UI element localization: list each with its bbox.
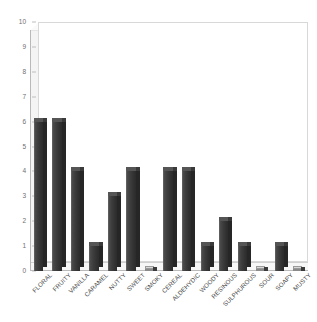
- bar-face: [163, 171, 172, 271]
- bar-cereal[interactable]: [163, 171, 172, 271]
- bar-vanilla[interactable]: [71, 171, 80, 271]
- y-axis-tick-label: 7: [22, 93, 26, 100]
- bar-face: [238, 246, 247, 271]
- bar-sweet[interactable]: [126, 171, 135, 271]
- bar-top-cap: [182, 167, 191, 171]
- bar-aldehydic[interactable]: [182, 171, 191, 271]
- bar-slot: [34, 22, 43, 271]
- bar-slot: [89, 22, 98, 271]
- y-axis-tick-label: 10: [19, 19, 26, 26]
- bar-top-cap: [108, 192, 117, 196]
- bar-face: [201, 246, 210, 271]
- bar-slot: [238, 22, 247, 271]
- y-axis-ticks: 109876543210: [6, 0, 26, 322]
- x-axis-label-sweet: SWEET: [126, 272, 146, 292]
- bar-top-cap: [256, 266, 265, 269]
- bar-face: [71, 171, 80, 271]
- bar-face: [108, 196, 117, 271]
- bar-slot: [52, 22, 61, 271]
- y-axis-tick-label: 0: [22, 268, 26, 275]
- bars-container: [30, 22, 308, 271]
- bar-smoky[interactable]: [145, 269, 154, 271]
- bar-slot: [219, 22, 228, 271]
- y-axis-tick-label: 4: [22, 168, 26, 175]
- bar-face: [126, 171, 135, 271]
- bar-woody[interactable]: [201, 246, 210, 271]
- bar-floral[interactable]: [34, 122, 43, 271]
- bar-top-cap: [163, 167, 172, 171]
- bar-top-cap: [293, 266, 302, 269]
- bar-fruity[interactable]: [52, 122, 61, 271]
- bar-soapy[interactable]: [275, 246, 284, 271]
- x-axis-label-floral: FLORAL: [32, 272, 54, 294]
- x-axis-label-soapy: SOAPY: [274, 272, 294, 292]
- bar-face: [182, 171, 191, 271]
- bar-side-face: [173, 167, 177, 267]
- y-axis-tick-label: 9: [22, 44, 26, 51]
- y-axis-tick-label: 3: [22, 193, 26, 200]
- bar-face: [219, 221, 228, 271]
- bar-side-face: [228, 217, 232, 267]
- bar-face: [275, 246, 284, 271]
- y-axis-tick-label: 8: [22, 69, 26, 76]
- bar-slot: [126, 22, 135, 271]
- bar-sour[interactable]: [256, 269, 265, 271]
- y-axis-tick-label: 2: [22, 218, 26, 225]
- bar-top-cap: [34, 118, 43, 122]
- bar-top-cap: [89, 242, 98, 246]
- bar-side-face: [136, 167, 140, 267]
- x-axis-labels: FLORALFRUITYVANILLACARAMELNUTTYSWEETSMOK…: [30, 272, 308, 322]
- bar-top-cap: [219, 217, 228, 221]
- bar-side-face: [191, 167, 195, 267]
- bar-nutty[interactable]: [108, 196, 117, 271]
- bar-chart: 109876543210 FLORALFRUITYVANILLACARAMELN…: [0, 0, 317, 322]
- bar-top-cap: [71, 167, 80, 171]
- bar-slot: [163, 22, 172, 271]
- bar-caramel[interactable]: [89, 246, 98, 271]
- bar-top-cap: [126, 167, 135, 171]
- bar-side-face: [80, 167, 84, 267]
- bar-top-cap: [145, 266, 154, 269]
- y-axis-tick-label: 1: [22, 243, 26, 250]
- bar-resinous[interactable]: [219, 221, 228, 271]
- y-axis-tick-label: 6: [22, 118, 26, 125]
- bar-side-face: [117, 192, 121, 267]
- bar-face: [52, 122, 61, 271]
- bar-slot: [182, 22, 191, 271]
- y-axis-tick-label: 5: [22, 143, 26, 150]
- bar-slot: [145, 22, 154, 271]
- bar-slot: [201, 22, 210, 271]
- x-axis-label-musty: MUSTY: [293, 272, 313, 292]
- bar-slot: [275, 22, 284, 271]
- bar-face: [89, 246, 98, 271]
- bar-side-face: [62, 118, 66, 267]
- bar-top-cap: [201, 242, 210, 246]
- bar-top-cap: [52, 118, 61, 122]
- bar-sulphurous[interactable]: [238, 246, 247, 271]
- bar-slot: [256, 22, 265, 271]
- bar-musty[interactable]: [293, 269, 302, 271]
- bar-slot: [293, 22, 302, 271]
- bar-top-cap: [238, 242, 247, 246]
- bar-slot: [71, 22, 80, 271]
- bar-face: [34, 122, 43, 271]
- bar-side-face: [43, 118, 47, 267]
- x-axis-label-nutty: NUTTY: [108, 272, 127, 291]
- bar-slot: [108, 22, 117, 271]
- bar-top-cap: [275, 242, 284, 246]
